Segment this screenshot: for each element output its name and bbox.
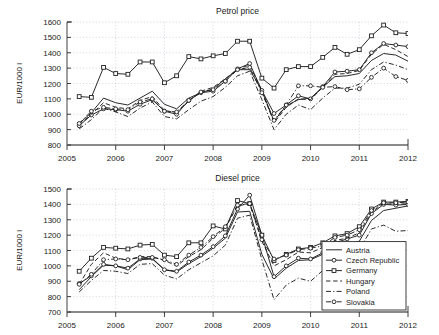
data-point — [175, 74, 179, 78]
data-point — [382, 201, 386, 205]
data-point — [357, 48, 361, 52]
y-tick-label: 800 — [48, 141, 62, 150]
data-point — [394, 201, 398, 205]
data-point — [236, 199, 240, 203]
data-point — [272, 112, 276, 116]
y-tick-label: 1100 — [44, 95, 62, 104]
data-point — [309, 246, 313, 250]
data-point — [309, 257, 313, 261]
data-point — [248, 39, 252, 43]
legend-label: Czech Republic — [346, 256, 399, 265]
data-point — [284, 253, 288, 257]
data-point — [272, 275, 276, 279]
data-point — [126, 108, 130, 112]
x-tick-label: 2009 — [253, 154, 271, 163]
data-point — [150, 97, 154, 101]
y-tick-label: 1400 — [43, 49, 61, 58]
data-point — [187, 253, 191, 257]
data-point — [309, 84, 313, 88]
y-tick-label: 1600 — [43, 18, 61, 27]
y-tick-label: 900 — [48, 126, 62, 135]
y-tick-label: 700 — [48, 308, 62, 317]
data-point — [248, 202, 252, 206]
y-axis-label: EUR/1000 l — [15, 230, 24, 271]
x-axis-ticks: 20052006200720082009201020112012 — [58, 145, 417, 163]
data-point — [345, 52, 349, 56]
data-point — [406, 200, 410, 204]
legend-label: Austria — [346, 246, 370, 255]
data-point — [150, 256, 154, 260]
data-point — [296, 65, 300, 69]
x-tick-label: 2007 — [156, 154, 174, 163]
data-point — [211, 245, 215, 249]
data-point — [357, 228, 361, 232]
data-point — [248, 193, 252, 197]
data-point — [370, 34, 374, 38]
data-point — [199, 241, 203, 245]
x-tick-label: 2006 — [107, 321, 125, 330]
legend-marker-square — [332, 269, 336, 273]
x-tick-label: 2005 — [58, 321, 76, 330]
data-point — [175, 255, 179, 259]
data-point — [357, 233, 361, 237]
chart-panel-petrol: Petrol price8009001000110012001300140015… — [0, 0, 439, 167]
data-point — [382, 23, 386, 27]
data-point — [150, 60, 154, 64]
data-point — [272, 119, 276, 123]
data-point — [284, 68, 288, 72]
data-point — [138, 100, 142, 104]
data-point — [333, 45, 337, 49]
x-tick-label: 2011 — [351, 154, 369, 163]
data-point — [89, 256, 93, 260]
data-point — [89, 272, 93, 276]
chart-panel-diesel: Diesel price7008009001000110012001300140… — [0, 167, 439, 334]
data-point — [199, 253, 203, 257]
y-tick-label: 1100 — [44, 247, 62, 256]
legend-label: Slovakia — [346, 298, 375, 307]
data-point — [223, 52, 227, 56]
data-point — [126, 266, 130, 270]
data-point — [163, 109, 167, 113]
x-tick-label: 2008 — [204, 321, 222, 330]
data-point — [248, 62, 252, 66]
data-point — [77, 269, 81, 273]
data-point — [102, 258, 106, 262]
data-point — [187, 241, 191, 245]
data-point — [284, 103, 288, 107]
data-point — [138, 256, 142, 260]
x-tick-label: 2010 — [302, 321, 320, 330]
data-point — [406, 79, 410, 83]
x-tick-label: 2006 — [107, 154, 125, 163]
legend-marker-circle — [332, 300, 336, 304]
chart-legend[interactable]: AustriaCzech RepublicGermanyHungaryPolan… — [322, 242, 406, 310]
diesel-chart-svg: Diesel price7008009001000110012001300140… — [0, 167, 439, 335]
y-tick-label: 1000 — [43, 262, 61, 271]
data-point — [406, 45, 410, 49]
y-tick-label: 1300 — [43, 64, 61, 73]
data-point — [199, 246, 203, 250]
data-point — [102, 262, 106, 266]
data-point — [394, 43, 398, 47]
x-axis-ticks: 20052006200720082009201020112012 — [58, 312, 417, 330]
series-czech-republic — [77, 42, 410, 128]
data-point — [333, 70, 337, 74]
y-tick-label: 1400 — [43, 200, 61, 209]
data-point — [333, 85, 337, 89]
y-tick-label: 1200 — [43, 231, 61, 240]
data-point — [199, 90, 203, 94]
data-point — [260, 76, 264, 80]
series-layer — [77, 23, 410, 129]
data-point — [260, 238, 264, 242]
data-point — [406, 32, 410, 36]
data-point — [163, 81, 167, 85]
data-point — [114, 246, 118, 250]
chart-title: Diesel price — [215, 173, 260, 183]
data-point — [187, 55, 191, 59]
x-tick-label: 2005 — [58, 154, 76, 163]
data-point — [199, 57, 203, 61]
y-tick-label: 1200 — [43, 80, 61, 89]
data-point — [211, 88, 215, 92]
data-point — [114, 257, 118, 261]
data-point — [272, 86, 276, 90]
data-point — [175, 269, 179, 273]
